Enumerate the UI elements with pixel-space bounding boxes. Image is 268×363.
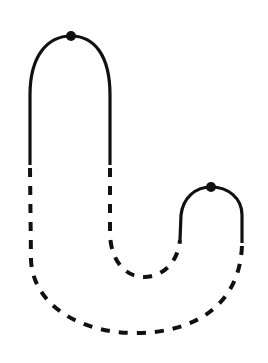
small-arch-apex-dot xyxy=(206,182,216,192)
curve-diagram xyxy=(0,0,268,363)
apex-dots xyxy=(66,31,216,192)
dashed-connectors xyxy=(30,168,242,333)
solid-arches xyxy=(30,36,242,243)
outer-u-dashed-path xyxy=(30,168,242,333)
large-arch-path xyxy=(30,36,110,165)
inner-u-dashed-path xyxy=(110,168,180,277)
small-arch-path xyxy=(180,187,242,243)
diagram-canvas xyxy=(0,0,268,363)
large-arch-apex-dot xyxy=(66,31,76,41)
